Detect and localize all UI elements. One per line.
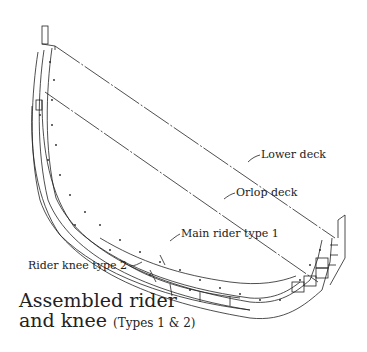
label-orlop-deck: Orlop deck xyxy=(236,186,297,199)
lower-deck-line xyxy=(55,46,335,238)
lower-deck-leader xyxy=(248,155,260,162)
label-main-rider: Main rider type 1 xyxy=(181,227,279,240)
main-rider-leader xyxy=(170,234,180,241)
orlop-deck-leader xyxy=(224,193,235,199)
caption: Assembled rider and knee (Types 1 & 2) xyxy=(19,290,196,333)
caption-line2: and knee (Types 1 & 2) xyxy=(19,310,196,333)
caption-line2-main: and knee xyxy=(19,309,107,331)
caption-line2-sub: (Types 1 & 2) xyxy=(113,316,195,330)
caption-line1: Assembled rider xyxy=(19,290,196,310)
label-rider-knee: Rider knee type 2 xyxy=(28,259,127,272)
diagram-canvas: Lower deck Orlop deck Main rider type 1 … xyxy=(0,0,367,352)
label-lower-deck: Lower deck xyxy=(261,148,326,161)
